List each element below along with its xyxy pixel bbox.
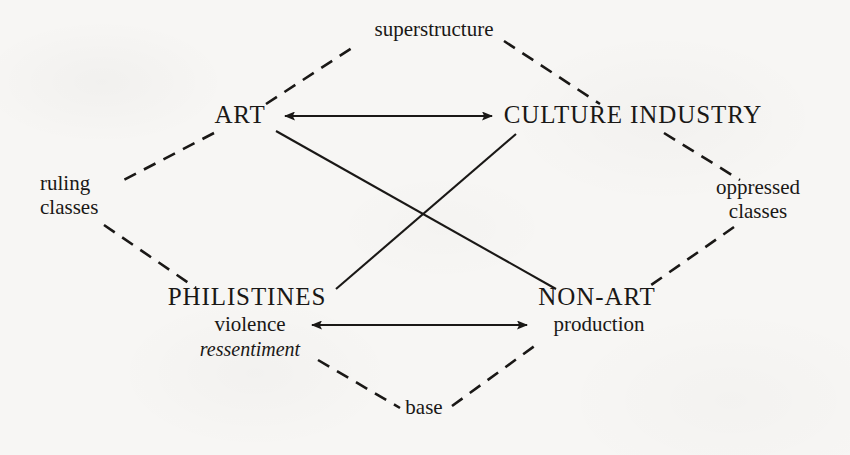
oppressed-classes-line-1: oppressed <box>716 176 800 200</box>
node-art: ART <box>214 101 265 129</box>
diagram-edges <box>0 0 850 455</box>
solid-edge-art-non-art <box>276 131 556 289</box>
node-non-art-sublabel-production: production <box>554 313 645 337</box>
ruling-classes-line-2: classes <box>40 196 98 220</box>
apex-label-ruling-classes: ruling classes <box>40 172 98 219</box>
dashed-edge-culture-industry-oppressed-classes <box>664 133 740 180</box>
node-non-art: NON-ART <box>538 283 655 311</box>
apex-label-base: base <box>405 396 442 420</box>
dashed-edge-oppressed-classes-non-art <box>644 227 734 290</box>
dashed-edge-art-ruling-classes <box>118 133 214 183</box>
apex-label-oppressed-classes: oppressed classes <box>716 176 800 223</box>
node-culture-industry: CULTURE INDUSTRY <box>504 101 763 129</box>
apex-label-superstructure: superstructure <box>375 18 494 42</box>
dashed-edge-art-superstructure <box>266 44 358 104</box>
dashed-edge-philistines-base <box>318 360 400 408</box>
dashed-edge-ruling-classes-philistines <box>104 225 196 288</box>
node-philistines: PHILISTINES <box>168 283 327 311</box>
diagram-canvas: superstructure ART CULTURE INDUSTRY ruli… <box>0 0 850 455</box>
dashed-edge-superstructure-culture-industry <box>504 41 600 104</box>
dashed-edge-base-non-art <box>452 342 540 406</box>
node-philistines-sublabel-ressentiment: ressentiment <box>200 338 300 360</box>
node-philistines-sublabel-violence: violence <box>214 313 285 337</box>
oppressed-classes-line-2: classes <box>716 200 800 224</box>
ruling-classes-line-1: ruling <box>40 172 98 196</box>
solid-edge-culture-industry-philistines <box>336 134 516 289</box>
